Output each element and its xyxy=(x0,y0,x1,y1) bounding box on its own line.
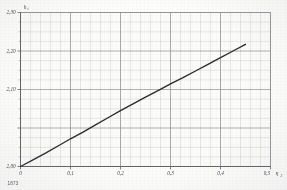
y-axis-label: h xyxy=(24,4,27,10)
y-tick-label-200: 2,00 xyxy=(7,163,16,169)
figure-container: 2,30 2,20 2,10 2,00 0 0,1 0,2 0,3 0,4 0,… xyxy=(0,0,287,190)
y-tick-label-230: 2,30 xyxy=(7,9,16,15)
x-tick-label-01: 0,1 xyxy=(67,170,74,176)
x-tick-label-05: 0,5 xyxy=(264,170,271,176)
x-tick-label-02: 0,2 xyxy=(117,170,124,176)
x-tick-label-03: 0,3 xyxy=(167,170,174,176)
graph-svg: 2,30 2,20 2,10 2,00 0 0,1 0,2 0,3 0,4 0,… xyxy=(0,0,287,190)
y-tick-label-220: 2,20 xyxy=(7,48,16,54)
y-tick-label-210: 2,10 xyxy=(7,86,16,92)
x-axis-label: η xyxy=(276,170,279,176)
x-tick-label-04: 0,4 xyxy=(217,170,224,176)
x-tick-label-0: 0 xyxy=(19,170,22,176)
figure-caption: 1873 xyxy=(8,181,19,186)
x-axis-label-subscript: 2 xyxy=(281,174,283,178)
